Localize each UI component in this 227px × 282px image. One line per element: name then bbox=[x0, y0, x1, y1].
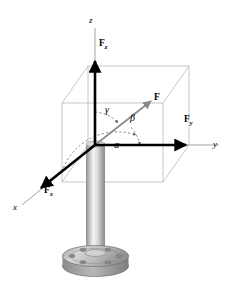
vector-label-Fz: Fz bbox=[99, 39, 107, 50]
post-collar bbox=[85, 250, 106, 257]
bolt-hole bbox=[105, 248, 111, 251]
vector-label-Fz-sub: z bbox=[105, 43, 108, 50]
arc-beta bbox=[131, 127, 140, 145]
angle-label-alpha: α bbox=[114, 140, 119, 150]
axis-label-x: x bbox=[13, 203, 17, 212]
axis-label-z: z bbox=[89, 16, 93, 25]
bolt-hole bbox=[80, 248, 86, 251]
axis-label-y: y bbox=[213, 140, 217, 149]
bolt-hole bbox=[105, 261, 111, 264]
vector-label-Fx: Fx bbox=[44, 186, 53, 197]
vector-label-Fy: Fy bbox=[184, 115, 193, 126]
bolt-hole bbox=[116, 254, 122, 257]
bolt-hole bbox=[80, 261, 86, 264]
reference-box-wireframe bbox=[62, 66, 189, 182]
box-edge-br bbox=[163, 145, 189, 182]
angle-label-gamma: γ bbox=[105, 105, 109, 115]
figure-canvas: z y x Fz F Fy Fx γ β α bbox=[0, 0, 227, 282]
post-shaft bbox=[86, 144, 105, 259]
box-front-face bbox=[62, 103, 163, 182]
bolt-hole bbox=[69, 254, 75, 257]
vector-label-F-text: F bbox=[154, 92, 160, 102]
vector-label-Fy-sub: y bbox=[190, 119, 193, 126]
angle-label-beta: β bbox=[130, 113, 135, 123]
vector-F bbox=[95, 101, 151, 145]
box-edge-tr bbox=[163, 66, 189, 103]
flange-base bbox=[63, 246, 129, 277]
box-edge-tl bbox=[62, 66, 88, 103]
vector-label-Fx-sub: x bbox=[50, 190, 53, 197]
vector-label-F: F bbox=[154, 93, 160, 103]
cylindrical-post bbox=[86, 141, 105, 259]
